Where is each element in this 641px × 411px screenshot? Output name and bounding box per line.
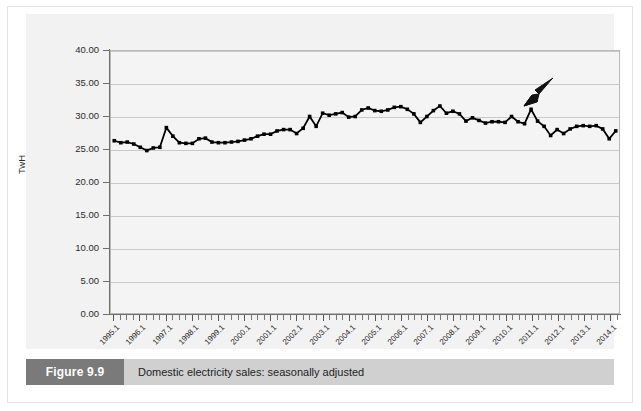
series-marker (301, 127, 305, 131)
x-axis-tick (591, 315, 592, 320)
series-marker (458, 112, 462, 116)
y-axis-tick-label: 10.00 (55, 243, 99, 253)
series-marker (112, 139, 116, 143)
series-marker (119, 141, 123, 145)
x-axis-tick (466, 315, 467, 320)
x-axis-tick (146, 315, 147, 320)
figure-root: 0.005.0010.0015.0020.0025.0030.0035.0040… (0, 0, 641, 411)
series-marker (536, 119, 540, 123)
x-axis-tick (316, 315, 317, 320)
x-axis-tick (610, 315, 611, 321)
x-axis-tick (551, 315, 552, 320)
x-axis-tick (205, 315, 206, 320)
y-axis-tick-labels: 0.005.0010.0015.0020.0025.0030.0035.0040… (52, 14, 99, 349)
series-marker (503, 121, 507, 125)
series-marker (438, 104, 442, 108)
x-axis-tick (231, 315, 232, 320)
y-axis-tick (103, 116, 109, 117)
x-axis-tick (499, 315, 500, 320)
x-axis-tick (427, 315, 428, 321)
x-axis-tick (394, 315, 395, 320)
x-axis-tick (264, 315, 265, 320)
series-marker (165, 126, 169, 130)
series-marker (334, 112, 338, 116)
series-marker (477, 119, 481, 123)
series-marker (445, 111, 449, 115)
y-axis-tick-label: 0.00 (55, 309, 99, 319)
x-axis-tick (270, 315, 271, 321)
series-marker (451, 109, 455, 113)
x-axis-tick (192, 315, 193, 321)
y-axis-tick (103, 182, 109, 183)
x-axis-tick (493, 315, 494, 320)
series-marker (295, 132, 299, 136)
series-marker (275, 129, 279, 133)
series-marker (152, 146, 156, 150)
x-axis-tick (578, 315, 579, 320)
x-axis-tick (597, 315, 598, 320)
series-marker (321, 111, 325, 115)
series-marker (471, 116, 475, 120)
x-axis-tick (486, 315, 487, 320)
series-marker (139, 145, 143, 149)
x-axis-tick (453, 315, 454, 321)
x-axis-tick (309, 315, 310, 320)
x-axis-tick (257, 315, 258, 320)
y-axis-tick-label: 15.00 (55, 210, 99, 220)
x-axis-tick (133, 315, 134, 320)
series-marker (184, 142, 188, 146)
y-axis-tick-label: 5.00 (55, 276, 99, 286)
series-marker (575, 125, 579, 129)
y-axis-tick-label: 35.00 (55, 78, 99, 88)
chart-panel: 0.005.0010.0015.0020.0025.0030.0035.0040… (26, 14, 614, 349)
series-marker (308, 115, 312, 119)
x-axis-tick (172, 315, 173, 320)
y-axis-tick (103, 215, 109, 216)
x-axis-tick (421, 315, 422, 320)
x-axis-tick (414, 315, 415, 320)
x-axis-tick (179, 315, 180, 320)
series-marker (145, 149, 149, 153)
series-marker (178, 141, 182, 145)
series-marker (399, 105, 403, 109)
series-marker (204, 136, 208, 140)
x-axis-tick (218, 315, 219, 321)
x-axis-tick (564, 315, 565, 320)
x-axis-tick (224, 315, 225, 320)
x-axis-tick (251, 315, 252, 320)
series-marker (217, 141, 221, 145)
x-axis-tick (479, 315, 480, 321)
x-axis-tick (401, 315, 402, 321)
x-axis-tick (244, 315, 245, 321)
series-marker (373, 109, 377, 113)
series-marker (406, 108, 410, 112)
x-axis-tick (153, 315, 154, 320)
y-axis-tick-label: 25.00 (55, 144, 99, 154)
x-axis-tick (296, 315, 297, 321)
series-marker (158, 145, 162, 149)
y-axis-tick-label: 30.00 (55, 111, 99, 121)
x-axis-tick (512, 315, 513, 320)
x-axis-tick (166, 315, 167, 321)
y-axis-tick (103, 248, 109, 249)
x-axis-tick (238, 315, 239, 320)
x-axis-tick (323, 315, 324, 321)
series-marker (425, 115, 429, 119)
x-axis-tick (277, 315, 278, 320)
x-axis-tick (362, 315, 363, 320)
series-marker (210, 140, 214, 144)
series-marker (236, 140, 240, 144)
x-axis-tick (159, 315, 160, 320)
y-axis-tick (103, 149, 109, 150)
series-marker (269, 132, 273, 136)
series-marker (288, 128, 292, 132)
series-marker (243, 138, 247, 142)
series-marker (256, 134, 260, 138)
figure-number-badge: Figure 9.9 (26, 359, 124, 385)
series-marker (379, 109, 383, 113)
series-marker (542, 125, 546, 129)
x-axis-tick (617, 315, 618, 320)
series-marker (249, 137, 253, 141)
x-axis-tick (532, 315, 533, 321)
series-marker (366, 106, 370, 110)
